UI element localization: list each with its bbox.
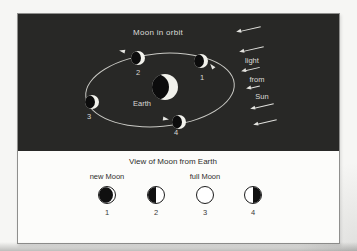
orbit-title: Moon in orbit — [133, 28, 183, 37]
new-moon-icon — [98, 186, 116, 204]
phase-item-4: 4 — [221, 172, 285, 217]
orbit-direction-arrow-icon — [163, 117, 169, 122]
moon-position-1 — [194, 54, 208, 68]
earth-view-panel: View of Moon from Earth new Moon 1 2 ful… — [18, 151, 339, 243]
view-panel-title: View of Moon from Earth — [129, 157, 217, 166]
moon-position-1-number: 1 — [200, 73, 204, 82]
sun-ray-arrow-icon — [250, 101, 275, 111]
moon-phases-figure: Moon in orbit Earth 1 2 3 4 light from S… — [17, 13, 340, 244]
full-moon-icon — [196, 186, 214, 204]
sun-ray-arrow-icon — [241, 65, 261, 74]
moon-position-4-number: 4 — [174, 128, 178, 137]
moon-position-4 — [172, 115, 186, 129]
last-quarter-moon-icon — [244, 186, 262, 204]
sunlight-label-word-3: Sun — [255, 92, 268, 101]
sun-ray-arrow-icon — [236, 24, 261, 34]
earth-label: Earth — [133, 99, 151, 108]
sunlight-label-word-1: light — [245, 56, 259, 65]
orbit-direction-arrow-icon — [119, 48, 126, 53]
moon-position-3-number: 3 — [87, 112, 91, 121]
earth — [152, 74, 178, 100]
phase-4-label — [221, 172, 285, 184]
orbit-diagram-panel: Moon in orbit Earth 1 2 3 4 light from S… — [18, 14, 339, 151]
moon-position-2 — [131, 51, 145, 65]
phase-4-number: 4 — [221, 208, 285, 217]
sunlight-label-word-2: from — [250, 75, 265, 84]
first-quarter-moon-icon — [147, 186, 165, 204]
sun-ray-arrow-icon — [246, 83, 261, 91]
scanned-page: Moon in orbit Earth 1 2 3 4 light from S… — [0, 0, 357, 251]
sun-ray-arrow-icon — [239, 44, 264, 54]
moon-position-2-number: 2 — [136, 68, 140, 77]
sun-ray-arrow-icon — [253, 117, 278, 127]
moon-position-3 — [85, 95, 99, 109]
